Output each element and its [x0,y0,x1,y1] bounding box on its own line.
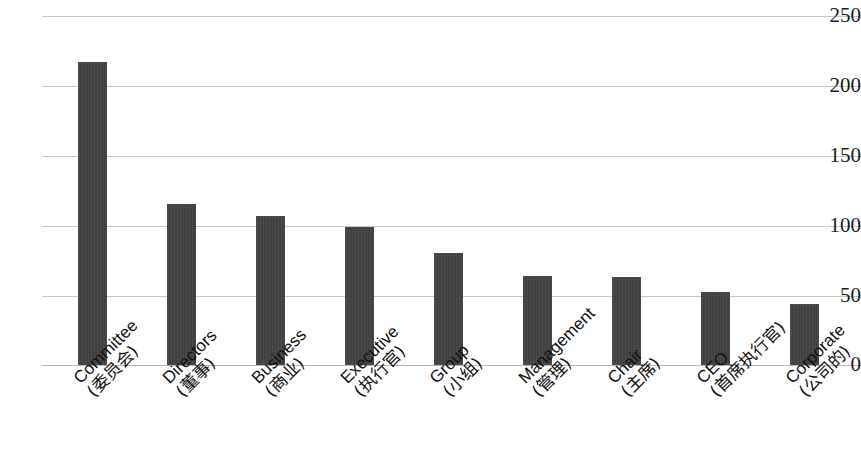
gridline-100 [42,226,861,227]
y-tick-label-250: 250 [825,5,861,26]
y-tick-label-100: 100 [825,215,861,236]
plot-area: 250 200 150 100 50 0 [0,0,861,370]
gridline-250 [42,16,861,17]
bar-chart: 250 200 150 100 50 0 Committee (委员会) Dir… [0,0,861,476]
x-axis-labels: Committee (委员会) Directors (董事) Business … [0,366,861,476]
gridline-200 [42,86,861,87]
gridline-150 [42,156,861,157]
y-tick-label-50: 50 [825,285,861,306]
y-tick-label-200: 200 [825,75,861,96]
y-tick-label-150: 150 [825,145,861,166]
bar-committee[interactable] [78,62,107,365]
